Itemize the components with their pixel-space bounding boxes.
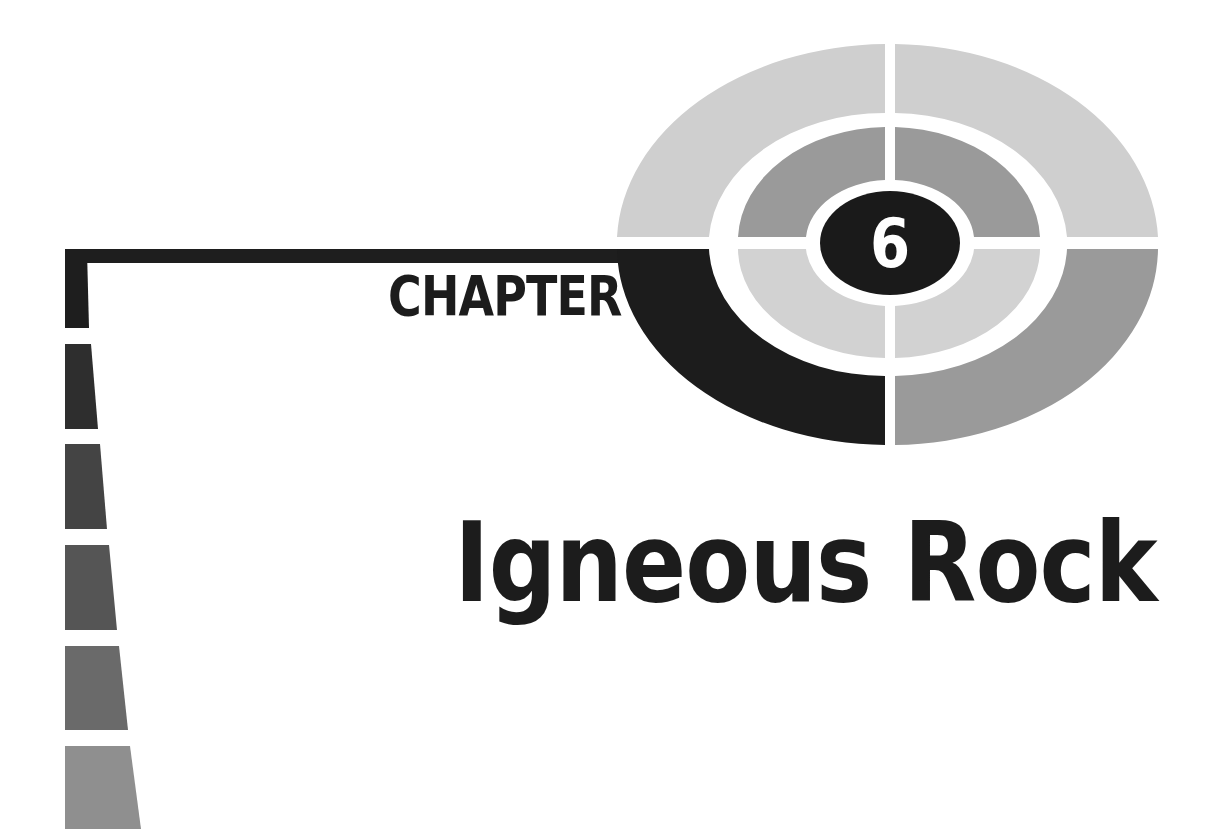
left-stripe-bars [65,251,141,829]
chapter-decoration [0,0,1225,829]
stripe-segment-3 [65,444,107,529]
chapter-label: CHAPTER [388,268,622,324]
stripe-segment-6 [65,746,141,829]
chapter-number: 6 [831,192,950,296]
stripe-segment-5 [65,646,128,730]
header-rule-bar [65,249,625,263]
stripe-segment-2 [65,344,98,429]
stripe-segment-4 [65,545,117,630]
chapter-title: Igneous Rock [454,500,1157,627]
